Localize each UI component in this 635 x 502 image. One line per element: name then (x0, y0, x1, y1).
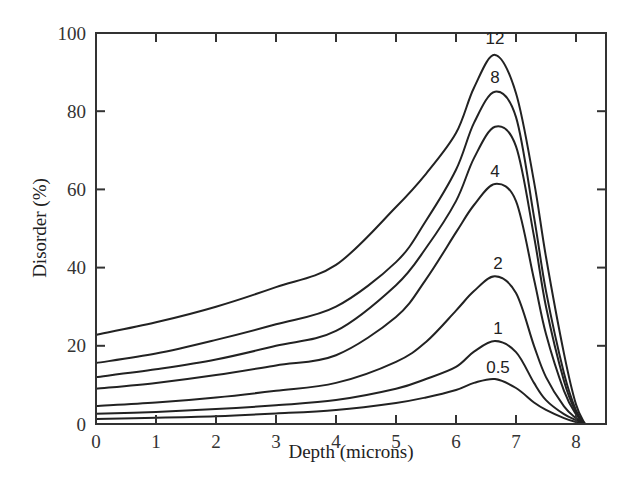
y-tick-label: 80 (67, 101, 86, 122)
curve-label: 8 (490, 68, 499, 87)
disorder-depth-chart: 012345678020406080100 1284210.5 Depth (m… (0, 0, 635, 502)
y-tick-label: 100 (58, 23, 87, 44)
x-tick-label: 3 (271, 431, 281, 452)
plot-frame (96, 33, 606, 424)
y-tick-label: 60 (67, 179, 86, 200)
x-tick-label: 0 (91, 431, 101, 452)
x-tick-label: 6 (451, 431, 461, 452)
curve-12 (96, 55, 585, 424)
data-curves (96, 55, 585, 424)
y-axis-title: Disorder (%) (29, 178, 51, 278)
y-tick-label: 40 (67, 257, 86, 278)
x-axis-title: Depth (microns) (288, 441, 413, 463)
curve-8 (96, 92, 585, 424)
x-tick-label: 2 (211, 431, 221, 452)
curve-labels: 1284210.5 (486, 29, 510, 376)
curve-6 (96, 126, 585, 424)
axis-ticks (96, 33, 606, 424)
y-tick-label: 20 (67, 335, 86, 356)
y-tick-label: 0 (77, 414, 87, 435)
curve-label: 1 (493, 319, 502, 338)
curve-label: 12 (486, 29, 505, 48)
x-tick-label: 7 (511, 431, 521, 452)
curve-label: 0.5 (486, 358, 510, 377)
x-tick-label: 8 (571, 431, 581, 452)
curve-label: 2 (493, 254, 502, 273)
curve-label: 4 (490, 162, 499, 181)
tick-labels: 012345678020406080100 (58, 23, 581, 452)
x-tick-label: 1 (151, 431, 161, 452)
